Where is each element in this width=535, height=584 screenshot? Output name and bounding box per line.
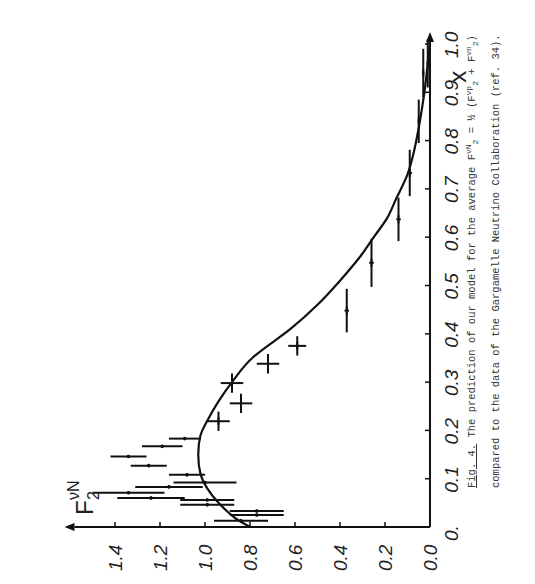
formula-lhs-sub: 2 bbox=[471, 140, 480, 145]
caption-formula: FνN2 = ½ (Fνp2 + Fνn2) bbox=[466, 35, 478, 160]
data-point bbox=[142, 445, 183, 449]
data-point bbox=[180, 498, 234, 502]
data-point bbox=[230, 509, 284, 513]
data-point bbox=[230, 394, 253, 413]
data-point bbox=[221, 373, 244, 392]
data-point-marker bbox=[185, 473, 189, 477]
data-point bbox=[257, 354, 280, 373]
data-point bbox=[418, 100, 420, 143]
data-point bbox=[396, 198, 401, 241]
y-axis-label-sup: νN bbox=[65, 480, 82, 500]
data-point bbox=[131, 464, 167, 468]
figure-frame: 0.0.10.20.30.40.50.60.70.80.91.0 0.00.20… bbox=[0, 0, 535, 584]
data-point-marker bbox=[205, 503, 209, 507]
data-point bbox=[180, 503, 234, 507]
model-curve-group bbox=[198, 44, 430, 527]
data-point bbox=[169, 437, 201, 441]
data-point-marker bbox=[127, 491, 131, 495]
y-tick-label: 0.4 bbox=[330, 545, 351, 571]
formula-t1-sub: 2 bbox=[471, 81, 480, 86]
model-curve-line bbox=[198, 44, 430, 527]
formula-open: (F bbox=[466, 95, 478, 108]
data-point bbox=[427, 39, 429, 87]
data-point-marker bbox=[127, 455, 131, 459]
formula-lhs-sup: νN bbox=[463, 144, 472, 154]
data-point bbox=[135, 485, 203, 489]
data-point-marker bbox=[255, 513, 259, 517]
caption-line-2: compared to the data of the Gargamelle N… bbox=[486, 8, 506, 488]
formula-t2-sub: 2 bbox=[471, 41, 480, 46]
data-points-group bbox=[93, 39, 429, 522]
y-tick-label: 1.2 bbox=[150, 544, 171, 571]
data-point-marker bbox=[183, 437, 187, 441]
formula-eq: = ½ bbox=[466, 114, 478, 133]
data-point-marker bbox=[149, 496, 153, 500]
data-point bbox=[369, 239, 374, 287]
formula-lhs: F bbox=[466, 154, 478, 160]
x-tick-label: 0. bbox=[441, 525, 462, 541]
data-point bbox=[230, 513, 284, 517]
y-ticks: 0.00.20.40.60.81.01.21.4 bbox=[105, 522, 441, 571]
data-point bbox=[288, 336, 306, 355]
structure-function-chart: 0.0.10.20.30.40.50.60.70.80.91.0 0.00.20… bbox=[0, 0, 535, 584]
data-point-marker bbox=[203, 481, 207, 485]
y-axis-label-main: F bbox=[71, 500, 98, 515]
figure-label: Fig. 4. bbox=[466, 444, 478, 488]
y-tick-label: 0.6 bbox=[285, 544, 306, 571]
caption-line-1: Fig. 4. The prediction of our model for … bbox=[458, 8, 486, 488]
data-point bbox=[111, 455, 147, 459]
data-point-marker bbox=[160, 445, 164, 449]
data-point-marker bbox=[205, 498, 209, 502]
y-axis-arrow-icon bbox=[65, 523, 75, 531]
data-point bbox=[214, 519, 268, 523]
y-tick-label: 0.0 bbox=[420, 544, 441, 571]
formula-plus: + F bbox=[466, 56, 478, 75]
data-point-marker bbox=[167, 485, 171, 489]
caption-text-1: The prediction of our model for the aver… bbox=[466, 167, 478, 438]
data-point-marker bbox=[239, 519, 243, 523]
y-tick-label: 1.0 bbox=[195, 544, 216, 571]
figure-caption: Fig. 4. The prediction of our model for … bbox=[458, 8, 506, 488]
formula-close: ) bbox=[466, 35, 478, 41]
data-point-marker bbox=[255, 509, 259, 513]
y-axis-label-sub: 2 bbox=[85, 491, 102, 500]
data-point bbox=[408, 150, 413, 196]
data-point-marker bbox=[147, 464, 151, 468]
y-tick-label: 0.2 bbox=[375, 544, 396, 571]
data-point bbox=[93, 491, 165, 495]
data-point bbox=[422, 49, 424, 97]
data-point bbox=[117, 496, 185, 500]
formula-t2-sup: νn bbox=[463, 46, 472, 56]
y-tick-label: 0.8 bbox=[240, 544, 261, 571]
data-point bbox=[174, 481, 237, 485]
y-tick-label: 1.4 bbox=[105, 545, 126, 571]
y-axis-label: F 2 νN bbox=[65, 480, 102, 515]
data-point bbox=[345, 289, 350, 332]
formula-t1-sup: νp bbox=[463, 86, 472, 96]
